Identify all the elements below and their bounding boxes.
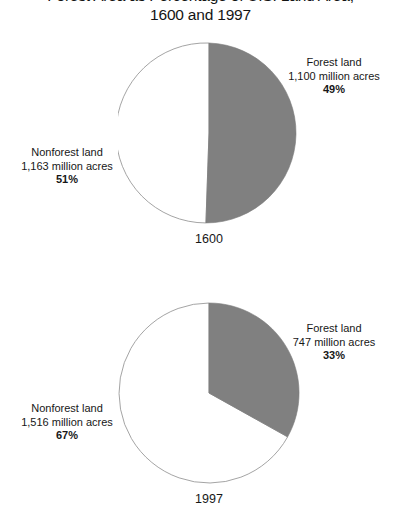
label-forest-1997: Forest land 747 million acres 33% (268, 322, 400, 363)
label-nonforest-1600-amount: 1,163 million acres (2, 160, 132, 174)
label-forest-1600: Forest land 1,100 million acres 49% (268, 56, 400, 97)
chart-title: Forest Area as Percentage of U.S. Land A… (0, 0, 401, 24)
label-forest-1997-amount: 747 million acres (268, 336, 400, 350)
label-nonforest-1997-name: Nonforest land (2, 402, 132, 416)
label-nonforest-1600-percent: 51% (2, 173, 132, 187)
label-forest-1600-percent: 49% (268, 83, 400, 97)
label-nonforest-1997-amount: 1,516 million acres (2, 416, 132, 430)
slice-nonforest-1600 (118, 43, 209, 223)
label-nonforest-1997: Nonforest land 1,516 million acres 67% (2, 402, 132, 443)
year-caption-1997: 1997 (118, 492, 300, 506)
label-nonforest-1600: Nonforest land 1,163 million acres 51% (2, 146, 132, 187)
label-forest-1997-percent: 33% (268, 349, 400, 363)
year-caption-1600: 1600 (118, 232, 300, 246)
label-nonforest-1997-percent: 67% (2, 429, 132, 443)
label-forest-1997-name: Forest land (268, 322, 400, 336)
label-nonforest-1600-name: Nonforest land (2, 146, 132, 160)
label-forest-1600-name: Forest land (268, 56, 400, 70)
label-forest-1600-amount: 1,100 million acres (268, 70, 400, 84)
